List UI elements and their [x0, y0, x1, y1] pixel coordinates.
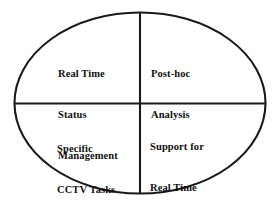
- quadrant-label-bottom-right-line-2: Real Time: [150, 181, 210, 195]
- ellipse-quadrant-diagram: Real Time Status Management Post-hoc Ana…: [0, 0, 278, 205]
- quadrant-label-bottom-right: Support for Real Time Incident Managemen…: [150, 113, 210, 205]
- quadrant-label-bottom-left: Specific CCTV Tasks: [57, 115, 115, 205]
- quadrant-label-bottom-left-line-1: Specific: [57, 142, 115, 156]
- quadrant-label-top-left-line-1: Real Time: [58, 67, 118, 81]
- quadrant-label-bottom-left-line-2: CCTV Tasks: [57, 183, 115, 197]
- quadrant-label-top-right-line-1: Post-hoc: [151, 67, 190, 81]
- quadrant-label-bottom-right-line-1: Support for: [150, 140, 210, 154]
- diagram-shapes: [0, 0, 278, 205]
